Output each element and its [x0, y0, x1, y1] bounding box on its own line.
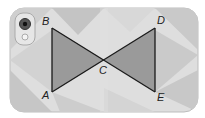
diagram: B D A E C — [0, 0, 205, 118]
phone-case-diagram — [0, 0, 205, 118]
point-label-e: E — [157, 92, 164, 103]
point-label-d: D — [157, 15, 165, 26]
camera — [15, 13, 35, 45]
point-label-c: C — [99, 65, 107, 76]
point-label-a: A — [42, 90, 49, 101]
point-label-b: B — [42, 16, 49, 27]
